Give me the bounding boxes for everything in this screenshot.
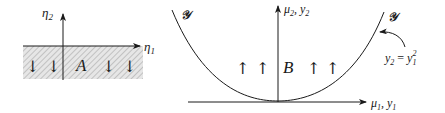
down-arrow-icon: ↓	[47, 57, 60, 76]
region-label-b: B	[283, 58, 294, 77]
down-arrow-icon: ↓	[123, 57, 136, 76]
down-arrow-icon: ↓	[102, 57, 115, 76]
annotation-pointer-arrow	[380, 32, 405, 47]
curve-equation-label: y2 = y12	[384, 49, 416, 67]
up-arrow-icon: ↑	[326, 59, 339, 78]
down-arrow-icon: ↓	[26, 57, 39, 76]
region-label-a: A	[75, 56, 87, 75]
eta2-axis-label: η2	[42, 5, 53, 22]
left-panel: η2 η1 ↓ ↓ A ↓ ↓	[23, 5, 155, 80]
mu1-y1-axis-label: μ1, y1	[370, 96, 396, 112]
diagram-canvas: η2 η1 ↓ ↓ A ↓ ↓ μ2, y2 μ1, y1 𝒴 𝒴 ↑ ↑ B …	[0, 0, 445, 113]
right-panel: μ2, y2 μ1, y1 𝒴 𝒴 ↑ ↑ B ↑ ↑ y2 = y12	[172, 2, 416, 112]
up-arrow-icon: ↑	[236, 59, 249, 78]
curve-label-y-right: 𝒴	[388, 10, 401, 24]
curve-label-y-left: 𝒴	[181, 8, 194, 22]
eta1-axis-label: η1	[144, 39, 155, 56]
mu2-y2-axis-label: μ2, y2	[283, 2, 309, 18]
up-arrow-icon: ↑	[256, 59, 269, 78]
up-arrow-icon: ↑	[307, 59, 320, 78]
